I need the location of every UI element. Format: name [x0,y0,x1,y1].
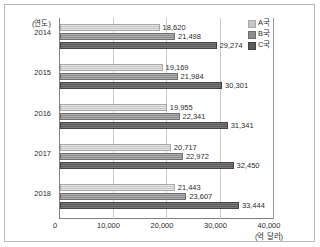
bar-value-label: 33,444 [242,201,265,210]
bar-value-label: 30,301 [225,81,248,90]
bar-value-label: 22,341 [183,112,206,121]
bar-value-label: 29,274 [220,41,243,50]
bar-C국-2015 [60,82,222,89]
bar-C국-2018 [60,202,239,209]
bar-A국-2015 [60,64,163,71]
year-label-2018: 2018 [15,189,51,198]
x-tick-20000: 20,000 [151,221,174,230]
bar-value-label: 23,607 [189,192,212,201]
bar-value-label: 32,450 [237,161,260,170]
bar-value-label: 22,972 [186,152,209,161]
bar-value-label: 19,955 [170,103,193,112]
bar-A국-2014 [60,24,160,31]
bar-A국-2016 [60,104,167,111]
bar-A국-2018 [60,184,175,191]
bar-C국-2016 [60,122,228,129]
bar-value-label: 21,984 [181,72,204,81]
year-label-2016: 2016 [15,109,51,118]
bar-value-label: 20,717 [174,143,197,152]
bar-value-label: 21,443 [178,183,201,192]
bar-value-label: 19,169 [166,63,189,72]
x-axis-unit-label: (억 달러) [255,232,283,241]
year-label-2015: 2015 [15,68,51,77]
y-axis-unit-label: (연도) [15,19,51,28]
x-tick-40000: 40,000 [258,221,281,230]
bar-B국-2014 [60,33,175,40]
plot-area: 18,62021,49829,27419,16921,98430,30119,9… [59,18,273,219]
bar-value-label: 18,620 [163,23,186,32]
bar-B국-2016 [60,113,180,120]
bar-A국-2017 [60,144,171,151]
bar-C국-2014 [60,42,217,49]
year-label-2017: 2017 [15,149,51,158]
gridline-40000 [273,18,274,219]
bar-C국-2017 [60,162,234,169]
x-tick-30000: 30,000 [204,221,227,230]
bar-value-label: 31,341 [231,121,254,130]
x-tick-0: 0 [53,221,57,230]
x-tick-10000: 10,000 [97,221,120,230]
year-label-2014: 2014 [15,28,51,37]
bar-value-label: 21,498 [178,32,201,41]
chart-screenshot: A국 B국 C국 (연도) 20142015201620172018 18,62… [0,0,320,247]
bar-B국-2017 [60,153,183,160]
bar-B국-2015 [60,73,178,80]
chart-frame: A국 B국 C국 (연도) 20142015201620172018 18,62… [4,4,315,242]
bar-B국-2018 [60,193,186,200]
